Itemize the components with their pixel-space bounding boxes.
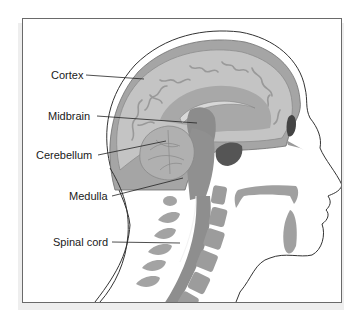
frontal-sinus [287,115,297,136]
label-midbrain: Midbrain [48,110,90,122]
palate [235,185,298,208]
label-spinal-cord: Spinal cord [53,236,108,248]
tongue [283,210,297,254]
nasal-bone [286,140,304,150]
spinous-processes [136,196,180,287]
label-cortex: Cortex [51,69,83,81]
label-cerebellum: Cerebellum [36,149,92,161]
label-medulla: Medulla [69,190,108,202]
